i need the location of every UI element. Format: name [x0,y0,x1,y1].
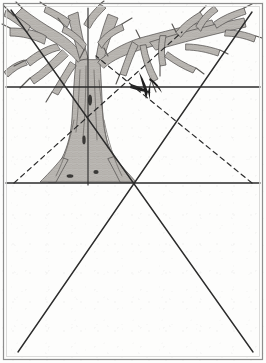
figure-root: Perspective study: bare tree on horizon … [0,0,266,363]
drawing-canvas [0,0,266,363]
